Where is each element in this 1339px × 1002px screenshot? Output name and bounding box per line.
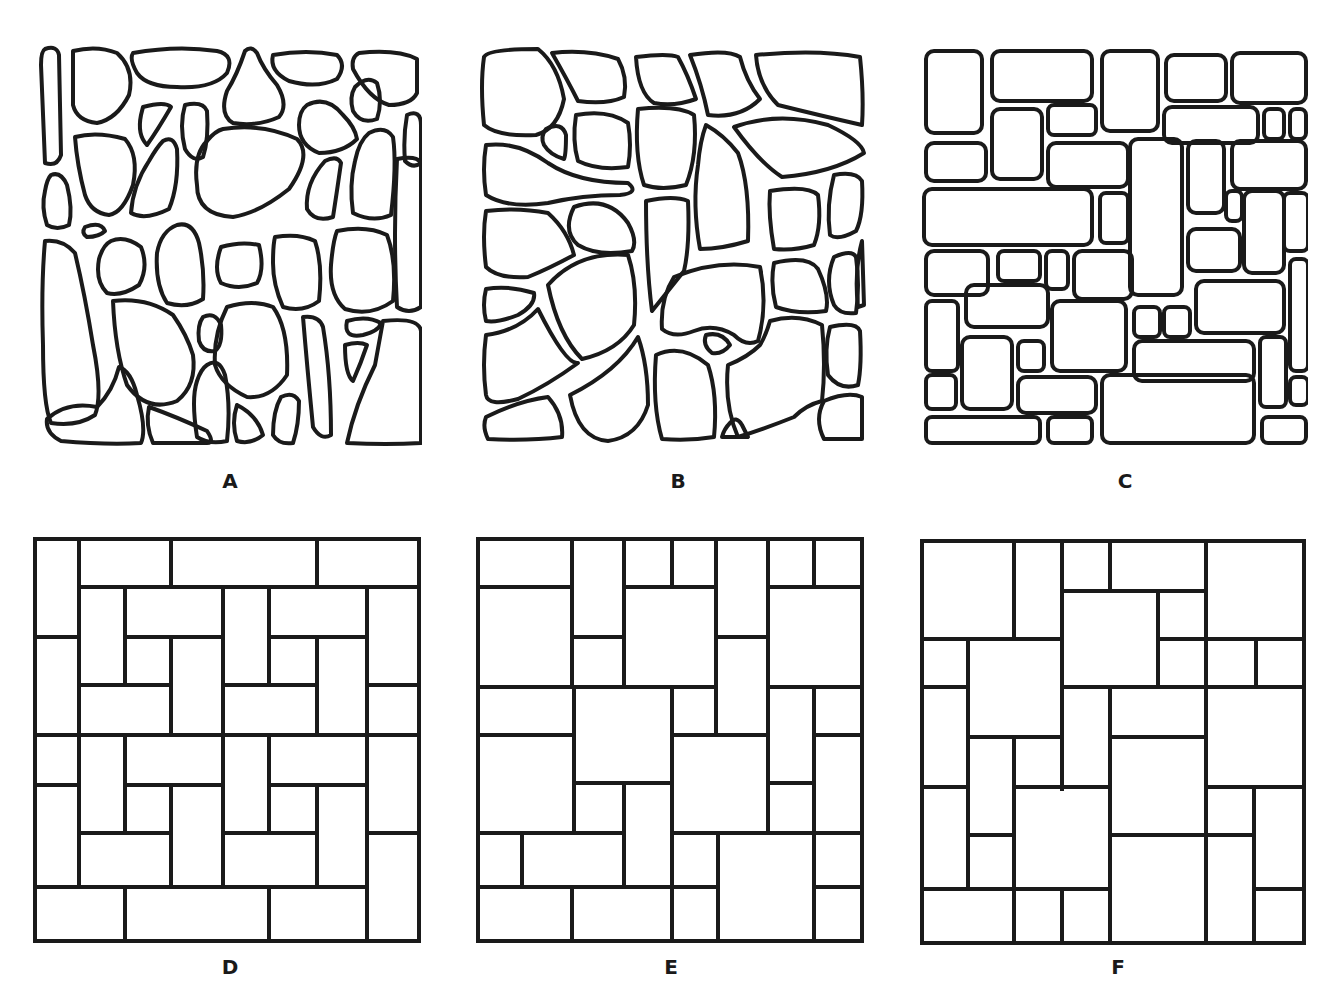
panel-c-label: C (1105, 469, 1145, 493)
panel-b-flagstone-pattern (478, 45, 868, 447)
panel-f-label: F (1098, 955, 1138, 979)
panel-c-ashlar-pattern (920, 45, 1308, 447)
panel-d-basketweave-pattern (33, 537, 423, 947)
panel-a-label: A (210, 469, 250, 493)
panel-a-rubble-pattern (37, 45, 422, 447)
panel-d-label: D (210, 955, 250, 979)
panel-e-label: E (651, 955, 691, 979)
panel-f-random-rectangular-pattern (918, 537, 1310, 947)
panel-b-label: B (658, 469, 698, 493)
panel-e-random-rectangular-pattern (474, 537, 866, 947)
